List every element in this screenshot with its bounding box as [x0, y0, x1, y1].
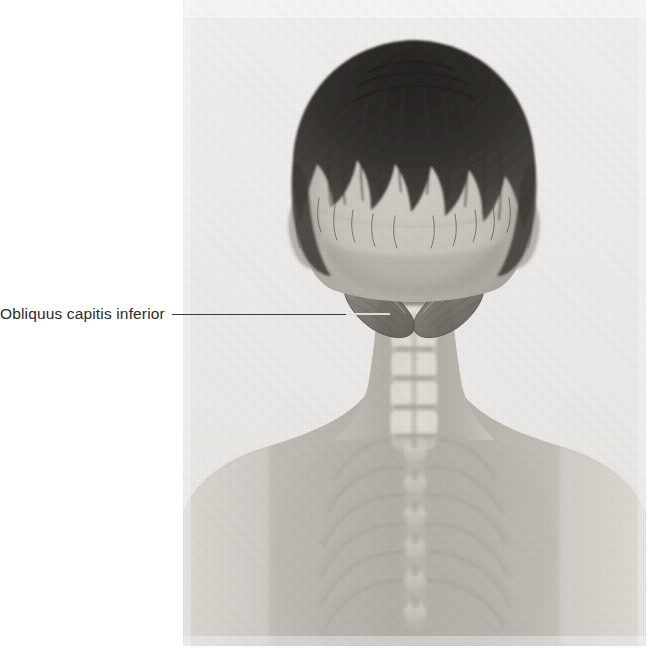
label-text: Obliquus capitis inferior — [0, 306, 165, 322]
label-obliquus-capitis-inferior: Obliquus capitis inferior — [0, 300, 382, 328]
leader-line-tip — [346, 313, 390, 315]
anatomical-figure: Obliquus capitis inferior — [0, 0, 663, 667]
